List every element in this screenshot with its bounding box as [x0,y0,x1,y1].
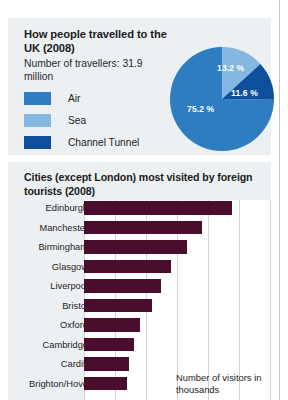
legend-item-air: Air [24,88,194,108]
table-row: Oxford [8,317,271,337]
bar-edinburgh [84,201,232,215]
page-right-border [279,0,280,400]
legend-label-sea: Sea [68,115,86,126]
legend-swatch-air [24,92,51,105]
infographic-page: How people travelled to the UK (2008) Nu… [0,0,288,400]
table-row: Edinburgh [8,200,271,220]
bar-manchester [84,221,202,235]
legend-label-air: Air [68,93,80,104]
bar-label-cambridge: Cambridge [43,340,88,350]
bar-label-glasgow: Glasgow [52,262,88,272]
legend-item-channel-tunnel: Channel Tunnel [24,132,194,152]
bar-label-birmingham: Birmingham [38,242,88,252]
legend-swatch-channel-tunnel [24,136,51,149]
legend-label-channel-tunnel: Channel Tunnel [68,137,139,148]
bar-cardiff [84,357,129,371]
table-row: Bristol [8,298,271,318]
bar-chart-plot: Edinburgh Manchester Birmingham Glasgow … [8,200,271,400]
bar-cambridge [84,338,134,352]
table-row: Liverpool [8,278,271,298]
bar-oxford [84,318,140,332]
table-row: Glasgow [8,259,271,279]
table-row: Cambridge [8,337,271,357]
bar-label-liverpool: Liverpool [50,281,88,291]
table-row: Birmingham [8,239,271,259]
pie-chart-graphic: 13.2 % 11.6 % 75.2 % [170,47,274,151]
pie-chart-subtitle: Number of travellers: 31.9 million [24,58,174,83]
bar-birmingham [84,240,187,254]
bar-chart-axis-annotation: Number of visitors in thousands [176,372,272,396]
legend-item-sea: Sea [24,110,194,130]
bar-chart-title: Cities (except London) most visited by f… [24,170,259,198]
bar-liverpool [84,279,161,293]
pie-value-sea: 13.2 % [217,63,244,73]
pie-chart-title: How people travelled to the UK (2008) [24,28,184,55]
pie-legend: Air Sea Channel Tunnel [24,88,194,154]
table-row: Manchester [8,220,271,240]
bar-chart-panel: Cities (except London) most visited by f… [8,162,271,400]
bar-bristol [84,299,152,313]
bar-glasgow [84,260,171,274]
bar-label-brighton-hove: Brighton/Hove [29,379,88,389]
pie-value-air: 75.2 % [187,104,214,114]
pie-chart-panel: How people travelled to the UK (2008) Nu… [8,18,271,155]
pie-value-channel-tunnel: 11.6 % [231,88,258,98]
bar-brighton-hove [84,377,127,391]
legend-swatch-sea [24,114,51,127]
bar-label-edinburgh: Edinburgh [46,203,88,213]
bar-label-manchester: Manchester [39,223,88,233]
